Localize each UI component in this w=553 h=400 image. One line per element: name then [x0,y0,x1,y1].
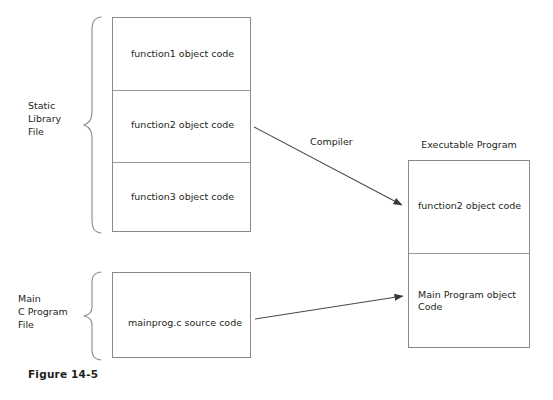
executable-cell-function2: function2 object code [418,200,521,212]
box-divider [113,162,250,163]
executable-program-title: Executable Program [408,139,530,150]
static-library-file-box: function1 object code function2 object c… [112,17,251,232]
compiler-arrow-label: Compiler [310,136,353,147]
library-cell-function2: function2 object code [131,119,234,131]
main-c-program-file-box: mainprog.c source code [112,272,251,358]
figure-canvas: Static Library File function1 object cod… [0,0,553,400]
curly-brace-icon [82,14,104,240]
main-c-program-group-label: Main C Program File [18,292,68,331]
link-arrow [255,296,403,319]
library-cell-function3: function3 object code [131,191,234,203]
executable-cell-main-program: Main Program object Code [418,289,516,313]
curly-brace-icon [82,269,104,367]
static-library-group-label: Static Library File [28,99,61,138]
box-divider [409,253,529,254]
mainprog-source-cell: mainprog.c source code [128,317,242,329]
executable-program-box: function2 object code Main Program objec… [408,160,530,348]
figure-caption: Figure 14-5 [28,368,98,380]
library-cell-function1: function1 object code [131,48,234,60]
box-divider [113,90,250,91]
